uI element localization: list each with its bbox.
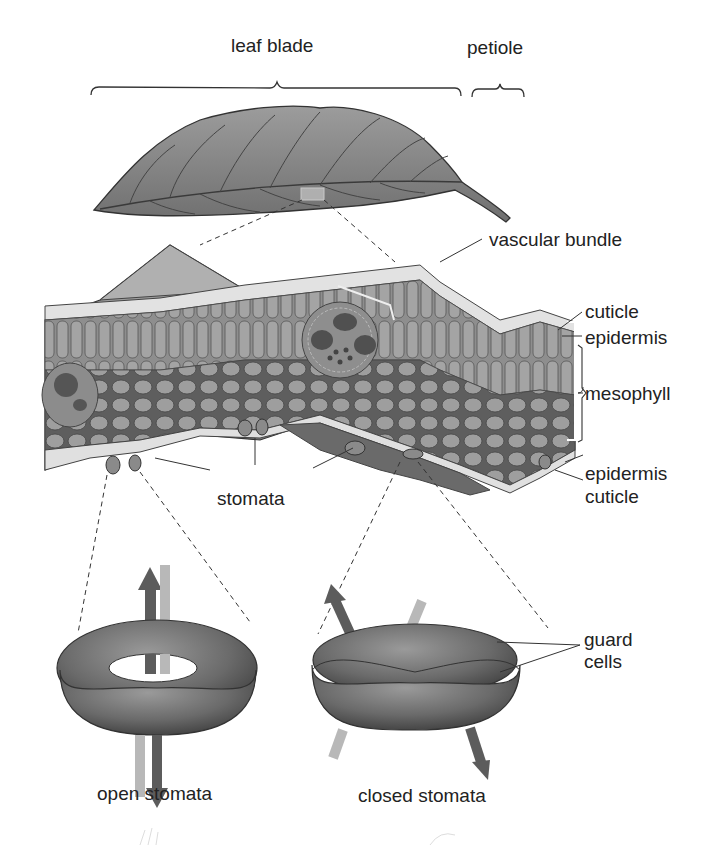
leaf-illustration bbox=[94, 106, 510, 222]
label-mesophyll: mesophyll bbox=[585, 384, 671, 403]
label-cuticle-bottom: cuticle bbox=[585, 487, 639, 506]
faint-residue bbox=[140, 828, 455, 845]
label-leaf-blade: leaf blade bbox=[231, 36, 313, 55]
petiole-brace bbox=[472, 84, 524, 97]
label-guard: guard bbox=[584, 630, 633, 649]
closed-stomata-illustration bbox=[312, 584, 520, 780]
label-petiole: petiole bbox=[467, 38, 523, 57]
label-cuticle-top: cuticle bbox=[585, 302, 639, 321]
label-cells: cells bbox=[584, 652, 622, 671]
label-epidermis-bottom: epidermis bbox=[585, 464, 667, 483]
label-vascular-bundle: vascular bundle bbox=[489, 230, 622, 249]
label-epidermis-top: epidermis bbox=[585, 328, 667, 347]
vascular-bundle-center bbox=[302, 302, 378, 378]
leaf-cross-section bbox=[42, 245, 575, 495]
label-closed-stomata: closed stomata bbox=[358, 786, 486, 805]
leaf-diagram-artwork bbox=[0, 0, 715, 847]
vascular-bundle-left bbox=[42, 363, 98, 427]
leaf-blade-brace bbox=[91, 82, 461, 96]
open-stomata-illustration bbox=[57, 565, 257, 808]
label-stomata: stomata bbox=[217, 489, 285, 508]
label-open-stomata: open stomata bbox=[97, 784, 212, 803]
